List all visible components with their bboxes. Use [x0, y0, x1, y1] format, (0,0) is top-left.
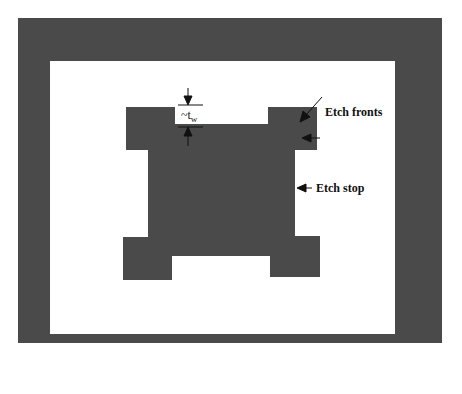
etched-cross-shape	[123, 107, 320, 280]
tw-prefix: ~t	[181, 108, 191, 122]
etch-stop-label: Etch stop	[316, 181, 364, 196]
tw-label: ~tw	[181, 108, 197, 124]
etched-shape-diagram	[0, 0, 462, 394]
etch-stop-arrow	[297, 184, 312, 192]
tw-subscript: w	[191, 114, 198, 124]
etch-fronts-label: Etch fronts	[325, 105, 382, 120]
